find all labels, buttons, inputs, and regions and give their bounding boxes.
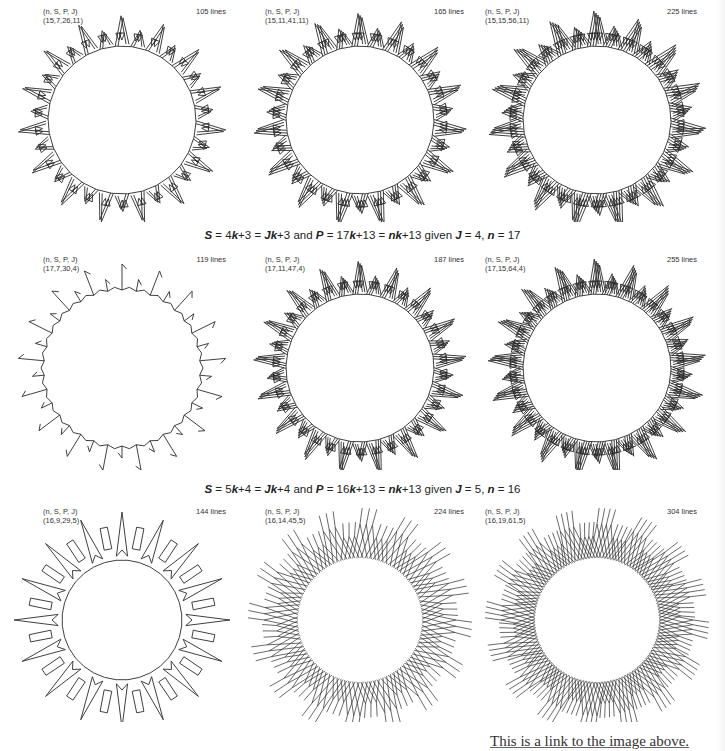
figure-panel-16-9-29-5: (n, S, P, J)(16,9,29,5) 144 lines bbox=[5, 502, 240, 722]
star-pattern-figure bbox=[5, 502, 240, 722]
figure-panel-15-15-56-11: (n, S, P, J)(15,15,56,11) 225 lines bbox=[480, 2, 715, 222]
figure-panel-16-19-61-5: (n, S, P, J)(16,19,61,5) 304 lines bbox=[480, 502, 715, 722]
figure-panel-17-15-64-4: (n, S, P, J)(17,15,64,4) 255 lines bbox=[480, 250, 715, 470]
formula-caption-j5-n16: S = 5k+4 = Jk+4 and P = 16k+13 = nk+13 g… bbox=[0, 483, 725, 495]
star-pattern-figure bbox=[243, 250, 478, 470]
star-pattern-figure bbox=[5, 250, 240, 470]
star-pattern-figure bbox=[480, 2, 715, 222]
figure-panel-17-7-30-4: (n, S, P, J)(17,7,30,4) 119 lines bbox=[5, 250, 240, 470]
page-edge bbox=[717, 0, 725, 751]
image-link[interactable]: This is a link to the image above. bbox=[490, 733, 689, 750]
figure-panel-15-11-41-11: (n, S, P, J)(15,11,41,11) 165 lines bbox=[243, 2, 478, 222]
formula-caption-j4-n17: S = 4k+3 = Jk+3 and P = 17k+13 = nk+13 g… bbox=[0, 229, 725, 241]
star-pattern-figure bbox=[480, 250, 715, 470]
star-pattern-figure bbox=[243, 2, 478, 222]
figure-panel-16-14-45-5: (n, S, P, J)(16,14,45,5) 224 lines bbox=[243, 502, 478, 722]
star-pattern-figure bbox=[243, 502, 478, 722]
star-pattern-figure bbox=[480, 502, 715, 722]
star-pattern-figure bbox=[5, 2, 240, 222]
figure-panel-17-11-47-4: (n, S, P, J)(17,11,47,4) 187 lines bbox=[243, 250, 478, 470]
figure-panel-15-7-26-11: (n, S, P, J)(15,7,26,11) 105 lines bbox=[5, 2, 240, 222]
